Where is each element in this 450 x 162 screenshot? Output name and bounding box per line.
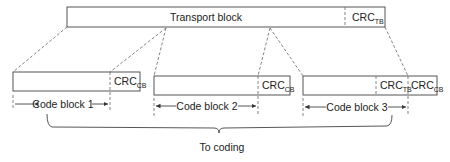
to-coding-label: To coding: [200, 141, 245, 153]
to-coding-brace: [47, 114, 392, 133]
code-block-1-label: Code block 1: [32, 98, 93, 110]
code-block-2-label: Code block 2: [176, 100, 237, 112]
code-block-1: CRCCB Code block 1: [13, 72, 147, 110]
code-block-3-crc-cb-label: CRCCB: [411, 79, 444, 93]
code-block-segmentation-diagram: Transport block CRCTB CRCCB Code block 1…: [0, 0, 450, 162]
transport-block: Transport block CRCTB: [67, 7, 385, 27]
code-block-3: CRCTB CRCCB Code block 3: [303, 76, 444, 116]
segmentation-mapping-lines: [13, 27, 408, 76]
code-block-3-label: Code block 3: [326, 101, 387, 113]
code-block-1-crc-label: CRCCB: [114, 75, 147, 89]
transport-block-label: Transport block: [170, 11, 243, 23]
code-block-2: CRCCB Code block 2: [154, 76, 295, 116]
